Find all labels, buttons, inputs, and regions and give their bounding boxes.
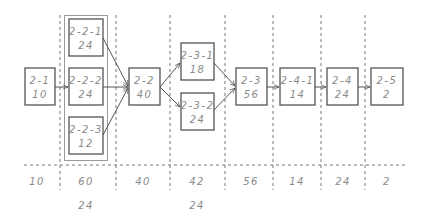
svg-text:2-3: 2-3	[241, 75, 262, 86]
svg-text:24: 24	[335, 89, 351, 100]
svg-text:24: 24	[78, 89, 94, 100]
svg-text:2-2: 2-2	[134, 75, 155, 86]
svg-text:14: 14	[290, 89, 306, 100]
svg-text:2-4: 2-4	[332, 75, 353, 86]
svg-text:12: 12	[78, 138, 94, 149]
node-2-2: 2-2 40	[129, 68, 160, 105]
svg-text:14: 14	[289, 176, 305, 187]
svg-text:2-2-2: 2-2-2	[69, 75, 103, 86]
svg-text:42: 42	[189, 176, 205, 187]
svg-text:24: 24	[335, 176, 351, 187]
svg-text:10: 10	[29, 176, 45, 187]
svg-text:2-2-3: 2-2-3	[69, 124, 103, 135]
process-flow-diagram: 2-1 10 2-2-1 24 2-2-2 24 2-2-3 12 2-2 40…	[0, 0, 424, 221]
svg-text:40: 40	[137, 89, 153, 100]
svg-text:2-5: 2-5	[377, 75, 398, 86]
svg-text:10: 10	[32, 89, 48, 100]
svg-text:60: 60	[78, 176, 94, 187]
svg-text:56: 56	[244, 89, 260, 100]
svg-text:24: 24	[78, 40, 94, 51]
svg-text:2: 2	[383, 89, 391, 100]
svg-text:24: 24	[190, 114, 206, 125]
node-2-5: 2-5 2	[371, 68, 403, 105]
svg-text:2-3-1: 2-3-1	[181, 50, 215, 61]
svg-text:18: 18	[190, 64, 206, 75]
node-2-2-1: 2-2-1 24	[69, 19, 103, 56]
svg-text:56: 56	[243, 176, 259, 187]
node-2-3-2: 2-3-2 24	[181, 93, 215, 130]
node-2-2-3: 2-2-3 12	[69, 117, 103, 154]
node-2-1: 2-1 10	[25, 68, 55, 105]
node-2-4: 2-4 24	[327, 68, 358, 105]
node-2-3: 2-3 56	[236, 68, 267, 105]
svg-text:2-1: 2-1	[30, 75, 51, 86]
node-2-4-1: 2-4-1 14	[280, 68, 315, 105]
svg-text:24: 24	[78, 200, 94, 211]
svg-text:2-3-2: 2-3-2	[181, 100, 215, 111]
node-2-2-2: 2-2-2 24	[69, 68, 103, 105]
svg-text:2-4-1: 2-4-1	[281, 75, 315, 86]
node-2-3-1: 2-3-1 18	[181, 43, 215, 80]
totals-row: 10 60 40 42 56 14 24 2	[29, 176, 391, 187]
svg-text:2: 2	[383, 176, 391, 187]
svg-text:40: 40	[135, 176, 151, 187]
secondary-row: 24 24	[78, 200, 205, 211]
svg-text:24: 24	[189, 200, 205, 211]
svg-text:2-2-1: 2-2-1	[69, 26, 103, 37]
